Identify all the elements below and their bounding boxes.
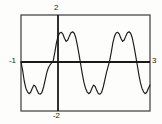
function-plot — [0, 0, 162, 124]
axis-label-xmax: 3 — [152, 57, 156, 65]
axis-label-xmin: -1 — [9, 57, 16, 65]
graph-viewport: 2 -1 3 -2 — [0, 0, 162, 124]
axis-label-ymax: 2 — [54, 4, 58, 12]
axis-label-ymin: -2 — [53, 112, 60, 120]
plot-background — [21, 15, 150, 111]
